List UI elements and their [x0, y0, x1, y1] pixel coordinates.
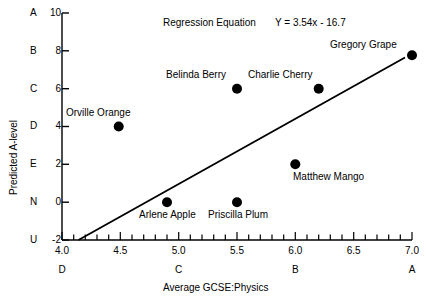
y-grade-label-D: D	[30, 121, 37, 131]
point-label-arlene-apple: Arlene Apple	[139, 210, 196, 220]
point-label-charlie-cherry: Charlie Cherry	[248, 70, 312, 80]
y-grade-label-A: A	[30, 8, 37, 18]
marker-matthew-mango	[290, 159, 300, 169]
x-grade-label-A: A	[398, 265, 426, 275]
point-label-gregory-grape: Gregory Grape	[330, 40, 397, 50]
point-label-matthew-mango: Matthew Mango	[293, 172, 364, 182]
x-grade-label-B: B	[281, 265, 309, 275]
y-tick-label-minus2: -2	[44, 235, 61, 245]
y-grade-label-E: E	[30, 159, 37, 169]
marker-priscilla-plum	[232, 197, 242, 207]
x-tick-label-7-0: 7.0	[398, 246, 426, 256]
x-tick-label-5-5: 5.5	[223, 246, 251, 256]
y-tick-label-4: 4	[47, 121, 61, 131]
x-axis-title: Average GCSE:Physics	[163, 283, 268, 293]
x-tick-label-4-0: 4.0	[48, 246, 76, 256]
marker-belinda-berry	[232, 84, 242, 94]
y-grade-label-N: N	[30, 197, 37, 207]
regression-equation-text: Y = 3.54x - 16.7	[275, 18, 346, 28]
x-tick-label-6-5: 6.5	[340, 246, 368, 256]
marker-charlie-cherry	[314, 84, 324, 94]
y-grade-label-B: B	[30, 46, 37, 56]
y-grade-label-C: C	[30, 84, 37, 94]
x-tick-label-5-0: 5.0	[165, 246, 193, 256]
marker-gregory-grape	[407, 50, 417, 60]
y-tick-label-8: 8	[47, 46, 61, 56]
y-axis-ticks	[62, 13, 69, 240]
marker-orville-orange	[114, 122, 124, 132]
x-tick-label-6-0: 6.0	[281, 246, 309, 256]
point-label-priscilla-plum: Priscilla Plum	[208, 210, 268, 220]
x-tick-label-4-5: 4.5	[106, 246, 134, 256]
y-tick-label-10: 10	[47, 8, 61, 18]
y-tick-label-0: 0	[47, 197, 61, 207]
x-grade-label-C: C	[165, 265, 193, 275]
x-axis-ticks	[62, 232, 412, 240]
y-tick-label-6: 6	[47, 84, 61, 94]
scatter-plot-figure: Predicted A-level 10 8 6 4 2 0 -2 A B C …	[0, 0, 426, 298]
point-label-belinda-berry: Belinda Berry	[166, 70, 226, 80]
marker-arlene-apple	[162, 197, 172, 207]
point-label-orville-orange: Orville Orange	[66, 108, 130, 118]
regression-equation-label: Regression Equation	[163, 18, 256, 28]
y-grade-label-U: U	[30, 235, 37, 245]
y-tick-label-2: 2	[47, 159, 61, 169]
y-axis-title: Predicted A-level	[8, 120, 19, 195]
x-grade-label-D: D	[48, 265, 76, 275]
